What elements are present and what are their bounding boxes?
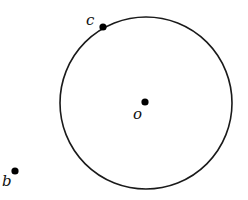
label-o: o	[133, 105, 142, 123]
label-c: c	[86, 11, 95, 29]
point-c	[99, 23, 106, 30]
label-b: b	[2, 172, 12, 190]
point-o-center	[141, 98, 148, 105]
geometry-diagram: c o b	[0, 0, 248, 200]
point-b	[11, 167, 18, 174]
